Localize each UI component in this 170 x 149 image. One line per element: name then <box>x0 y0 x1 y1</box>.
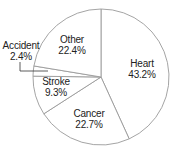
label-other: Other 22.4% <box>58 34 85 56</box>
label-accident-pct: 2.4% <box>3 51 40 62</box>
label-heart-pct: 43.2% <box>128 69 155 80</box>
label-stroke-name: Stroke <box>42 76 70 87</box>
label-stroke-pct: 9.3% <box>42 87 70 98</box>
label-other-name: Other <box>58 34 85 45</box>
label-heart-name: Heart <box>128 58 155 69</box>
label-cancer: Cancer 22.7% <box>73 108 104 130</box>
label-cancer-name: Cancer <box>73 108 104 119</box>
label-other-pct: 22.4% <box>58 45 85 56</box>
label-cancer-pct: 22.7% <box>73 119 104 130</box>
label-heart: Heart 43.2% <box>128 58 155 80</box>
label-stroke: Stroke 9.3% <box>42 76 70 98</box>
label-accident: Accident 2.4% <box>3 40 40 62</box>
label-accident-name: Accident <box>3 40 40 51</box>
